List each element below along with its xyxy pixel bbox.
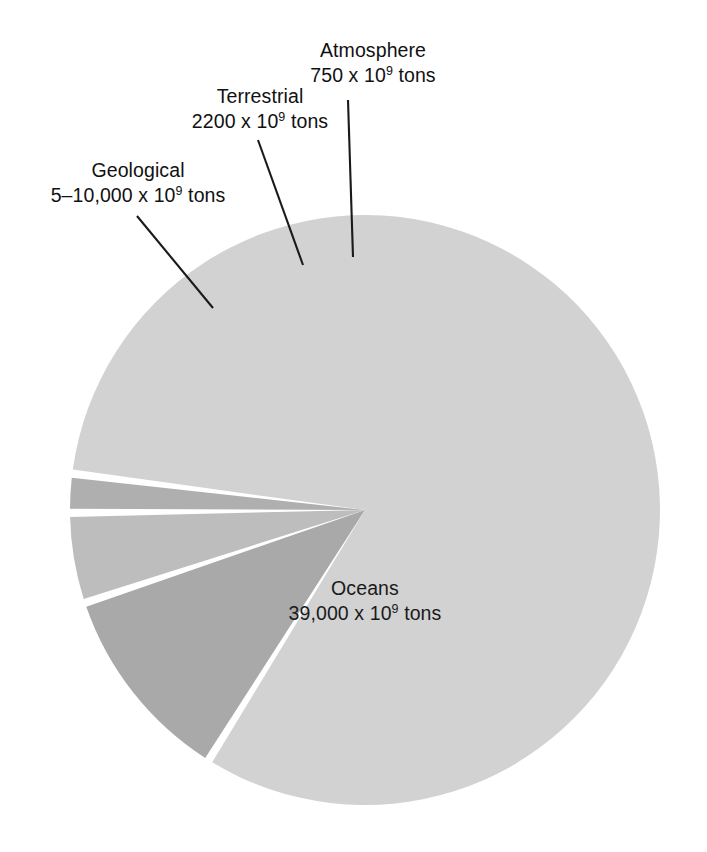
slice-label-geological-value: 5–10,000 x 109 tons (18, 183, 258, 208)
slice-label-oceans: Oceans 39,000 x 109 tons (245, 576, 485, 626)
exponent-9: 9 (176, 183, 183, 197)
pie-slices-group (70, 215, 660, 805)
slice-label-terrestrial-value: 2200 x 109 tons (140, 109, 380, 134)
slice-label-geological-category: Geological (18, 158, 258, 183)
slice-label-terrestrial: Terrestrial 2200 x 109 tons (140, 84, 380, 134)
pie-chart-figure: Geological 5–10,000 x 109 tons Terrestri… (0, 0, 707, 852)
slice-label-oceans-value: 39,000 x 109 tons (245, 601, 485, 626)
exponent-9: 9 (392, 601, 399, 615)
slice-label-geological: Geological 5–10,000 x 109 tons (18, 158, 258, 208)
slice-label-atmosphere: Atmosphere 750 x 109 tons (253, 38, 493, 88)
slice-label-atmosphere-category: Atmosphere (253, 38, 493, 63)
slice-label-atmosphere-value: 750 x 109 tons (253, 63, 493, 88)
exponent-9: 9 (386, 63, 393, 77)
slice-label-oceans-category: Oceans (245, 576, 485, 601)
